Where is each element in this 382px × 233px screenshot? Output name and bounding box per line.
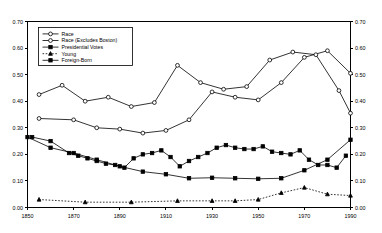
data-point-marker <box>270 150 273 153</box>
data-point-marker <box>164 129 168 133</box>
data-point-marker <box>326 163 329 166</box>
data-point-marker <box>95 158 98 161</box>
x-tick-label: 1870 <box>68 213 80 219</box>
y-tick-label-right: 0.40 <box>355 98 366 104</box>
data-point-marker <box>243 147 246 150</box>
data-point-marker <box>280 177 283 180</box>
data-point-marker <box>326 49 330 53</box>
chart-legend: RaceRace (Excludes Boston)Presidential V… <box>39 28 133 66</box>
data-point-marker <box>187 159 190 162</box>
data-point-marker <box>314 53 318 57</box>
y-tick-label-left: 0.00 <box>13 205 24 211</box>
data-point-marker <box>233 177 236 180</box>
data-point-marker <box>291 50 295 54</box>
data-point-marker <box>37 117 41 121</box>
data-point-marker <box>132 157 135 160</box>
data-point-marker <box>37 93 41 97</box>
data-point-marker <box>224 143 227 146</box>
y-tick-label-right: 0.70 <box>355 19 366 25</box>
data-point-marker <box>199 81 203 85</box>
data-point-marker <box>210 90 214 94</box>
data-point-marker <box>160 149 163 152</box>
data-point-marker <box>206 151 209 154</box>
data-point-marker <box>60 83 64 87</box>
data-point-marker <box>49 59 52 62</box>
data-point-marker <box>197 155 200 158</box>
data-point-marker <box>252 147 255 150</box>
data-point-marker <box>326 158 329 161</box>
y-tick-label-right: 0.20 <box>355 151 366 157</box>
data-point-marker <box>141 170 144 173</box>
data-point-marker <box>118 165 121 168</box>
data-point-marker <box>307 158 310 161</box>
x-tick-label: 1950 <box>252 213 264 219</box>
y-tick-label-right: 0.10 <box>355 178 366 184</box>
data-point-marker <box>279 81 283 85</box>
data-point-marker <box>152 101 156 105</box>
line-chart: 0.000.000.100.100.200.200.300.300.400.40… <box>0 0 382 233</box>
data-point-marker <box>164 173 167 176</box>
y-tick-label-left: 0.40 <box>13 98 24 104</box>
y-tick-label-right: 0.60 <box>355 45 366 51</box>
legend-label: Race (Excludes Boston) <box>62 37 118 43</box>
data-point-marker <box>118 127 122 131</box>
x-tick-label: 1990 <box>345 213 357 219</box>
legend-label: Young <box>62 51 77 57</box>
data-point-marker <box>233 95 237 99</box>
y-tick-label-left: 0.50 <box>13 72 24 78</box>
data-point-marker <box>289 153 292 156</box>
data-point-marker <box>169 155 172 158</box>
x-tick-label: 1910 <box>160 213 172 219</box>
data-point-marker <box>337 89 341 93</box>
data-point-marker <box>49 139 52 142</box>
data-point-marker <box>303 169 306 172</box>
data-point-marker <box>233 146 236 149</box>
data-point-marker <box>210 176 213 179</box>
chart-container: 0.000.000.100.100.200.200.300.300.400.40… <box>0 0 382 233</box>
data-point-marker <box>141 153 144 156</box>
data-point-marker <box>150 151 153 154</box>
data-point-marker <box>26 135 29 138</box>
data-point-marker <box>257 177 260 180</box>
data-point-marker <box>49 39 53 43</box>
y-tick-label-right: 0.50 <box>355 72 366 78</box>
data-point-marker <box>106 95 110 99</box>
y-tick-label-left: 0.30 <box>13 125 24 131</box>
data-point-marker <box>349 71 353 75</box>
y-tick-label-right: 0.00 <box>355 205 366 211</box>
data-point-marker <box>187 118 191 122</box>
data-point-marker <box>344 154 347 157</box>
y-tick-label-left: 0.20 <box>13 151 24 157</box>
data-point-marker <box>349 111 353 115</box>
data-point-marker <box>72 118 76 122</box>
legend-label: Race <box>62 31 74 37</box>
data-point-marker <box>256 98 260 102</box>
data-point-marker <box>349 138 352 141</box>
legend-label: Foreign-Born <box>62 57 92 63</box>
data-point-marker <box>141 131 145 135</box>
data-point-marker <box>95 126 99 130</box>
x-tick-label: 1970 <box>298 213 310 219</box>
data-point-marker <box>302 55 306 59</box>
y-tick-label-left: 0.70 <box>13 19 24 25</box>
y-tick-label-left: 0.60 <box>13 45 24 51</box>
data-point-marker <box>335 166 338 169</box>
y-tick-label-right: 0.30 <box>355 125 366 131</box>
x-tick-label: 1930 <box>206 213 218 219</box>
data-point-marker <box>83 99 87 103</box>
data-point-marker <box>222 87 226 91</box>
x-tick-label: 1890 <box>114 213 126 219</box>
data-point-marker <box>49 45 52 48</box>
data-point-marker <box>178 165 181 168</box>
legend-label: Presidential Votes <box>62 44 104 50</box>
data-point-marker <box>129 105 133 109</box>
data-point-marker <box>280 151 283 154</box>
y-tick-label-left: 0.10 <box>13 178 24 184</box>
data-point-marker <box>176 63 180 67</box>
data-point-marker <box>215 146 218 149</box>
data-point-marker <box>298 149 301 152</box>
data-point-marker <box>261 145 264 148</box>
data-point-marker <box>72 151 75 154</box>
data-point-marker <box>245 85 249 89</box>
data-point-marker <box>268 58 272 62</box>
